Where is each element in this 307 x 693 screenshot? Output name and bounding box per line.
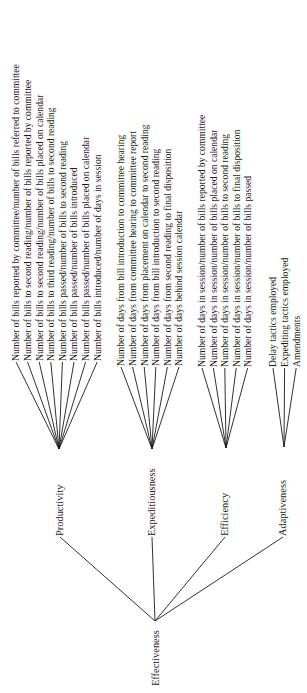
branch-node-adaptiveness: Adaptiveness xyxy=(277,480,288,536)
leaf-indicator: Number of days from bill introduction to… xyxy=(115,135,126,366)
branch-node-productivity: Productivity xyxy=(54,484,65,536)
leaf-indicator: Number of bills to third reading/number … xyxy=(45,107,56,361)
edge-branch-to-leaf xyxy=(202,368,226,448)
edge-branch-to-leaf xyxy=(225,368,226,448)
leaf-indicator: Number of days from second reading to fi… xyxy=(162,148,173,366)
tree-labels: Effectiveness Productivity Expeditiousne… xyxy=(54,468,288,686)
edge-branch-to-leaf xyxy=(144,367,152,449)
edge-branch-to-leaf xyxy=(16,362,59,449)
edge-branch-to-leaf xyxy=(121,367,152,449)
edge-root-to-branch xyxy=(152,537,155,621)
leaf-indicator: Number of days from placement on calenda… xyxy=(139,124,150,366)
branch-node-expeditiousness: Expeditiousness xyxy=(146,468,157,536)
edge-branch-to-leaf xyxy=(59,362,74,449)
leaf-indicator: Number of days behind session calendar xyxy=(173,210,184,366)
leaf-indicator: Number of days in session/number of bill… xyxy=(231,129,242,367)
leaf-indicator: Number of bills passed/number of bills p… xyxy=(80,136,91,361)
edge-branch-to-leaf xyxy=(133,367,152,449)
edge-root-to-branch xyxy=(155,537,225,621)
root-node-effectiveness: Effectiveness xyxy=(150,630,161,686)
edge-branch-to-leaf xyxy=(226,368,248,448)
edge-root-to-branch xyxy=(60,537,155,621)
leaf-indicator: Number of bills passed/number of bills t… xyxy=(57,141,68,361)
edge-branch-to-leaf xyxy=(28,362,59,449)
leaf-indicator: Delay tactics employed xyxy=(267,277,278,367)
leaf-indicator: Amendments xyxy=(291,316,302,367)
leaf-indicator: Number of days from committee hearing to… xyxy=(127,131,138,366)
leaf-indicator: Number of bills passed/number of bills i… xyxy=(68,167,79,361)
leaf-indicator: Number of days in session/number of bill… xyxy=(208,129,219,367)
branch-node-efficiency: Efficiency xyxy=(219,492,230,536)
leaf-indicator: Number of days in session/number of bill… xyxy=(196,115,207,367)
edge-branch-to-leaf xyxy=(59,362,97,449)
edge-branch-to-leaf xyxy=(213,368,226,448)
leaf-indicator-labels: Number of bills reported by committee/nu… xyxy=(10,64,301,367)
leaf-indicator: Number of days in session/number of bill… xyxy=(219,134,230,367)
edge-branch-to-leaf xyxy=(226,368,236,448)
leaf-indicator: Number of bills introduced/number of day… xyxy=(92,154,103,361)
edge-root-to-branch xyxy=(155,537,283,621)
leaf-indicator: Number of days from bill introduction to… xyxy=(150,148,161,366)
leaf-indicator: Number of bills to second reading/number… xyxy=(34,94,45,361)
edge-branch-to-leaf xyxy=(51,362,59,449)
effectiveness-tree-diagram: Effectiveness Productivity Expeditiousne… xyxy=(0,0,307,693)
edge-branch-to-leaf xyxy=(284,368,285,447)
edge-branch-to-leaf xyxy=(284,368,296,447)
edge-branch-to-leaf xyxy=(273,368,284,447)
leaf-indicator: Number of bills to second reading/number… xyxy=(22,80,33,361)
leaf-indicator: Number of bills reported by committee/nu… xyxy=(10,64,21,361)
edge-branch-to-leaf xyxy=(59,362,86,449)
edge-branch-to-leaf xyxy=(59,362,62,449)
edge-branch-to-leaf xyxy=(39,362,59,449)
leaf-indicator: Expediting tactics employed xyxy=(279,258,290,367)
leaf-indicator: Number of days in session/number of bill… xyxy=(242,176,253,367)
